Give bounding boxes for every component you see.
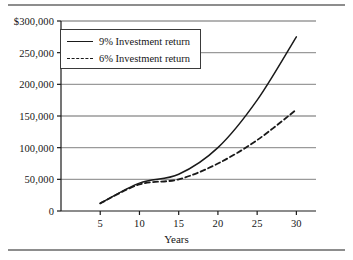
y-axis-tick-label: 250,000	[0, 47, 54, 58]
x-axis-tick-label: 10	[134, 218, 145, 229]
x-axis-tick-label: 25	[252, 218, 263, 229]
legend-label-series-1: 9% Investment return	[99, 36, 190, 47]
y-axis-tick-label: 200,000	[0, 79, 54, 90]
chart-legend: 9% Investment return 6% Investment retur…	[60, 29, 201, 69]
x-axis-tick-label: 5	[98, 218, 103, 229]
y-axis-tick-label: 100,000	[0, 142, 54, 153]
dashed-line-swatch-icon	[67, 53, 93, 63]
y-axis-tick-label: 0	[0, 206, 54, 217]
legend-item-series-1: 9% Investment return	[67, 32, 190, 50]
legend-label-series-2: 6% Investment return	[99, 53, 190, 64]
x-axis-title: Years	[0, 233, 353, 245]
y-axis-tick-label: 50,000	[0, 174, 54, 185]
x-axis-tick-label: 20	[213, 218, 224, 229]
y-axis-tick-label: 150,000	[0, 111, 54, 122]
x-axis-tick-label: 30	[291, 218, 302, 229]
solid-line-swatch-icon	[67, 36, 93, 46]
y-axis-tick-label: $300,000	[0, 16, 54, 27]
legend-item-series-2: 6% Investment return	[67, 49, 190, 67]
x-axis-tick-label: 15	[173, 218, 184, 229]
series-line-2	[100, 110, 296, 204]
figure-container: 050,000100,000150,000200,000250,000$300,…	[0, 0, 353, 260]
